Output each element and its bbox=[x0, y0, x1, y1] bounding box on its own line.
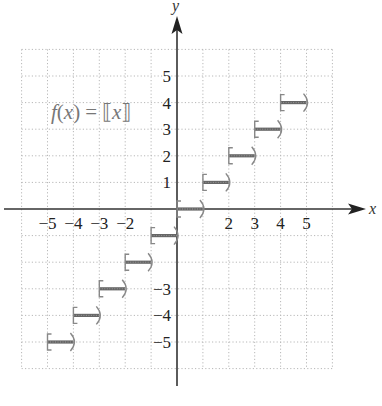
y-axis-label: y bbox=[170, 0, 180, 15]
step-segment bbox=[177, 200, 204, 218]
step-segment bbox=[99, 280, 126, 298]
step-segment bbox=[281, 94, 308, 112]
step-segment bbox=[73, 306, 100, 324]
step-segment bbox=[125, 253, 152, 271]
x-tick-label: 5 bbox=[302, 214, 311, 233]
y-tick-label: 3 bbox=[163, 120, 172, 139]
y-tick-label: 5 bbox=[163, 67, 172, 86]
y-tick-label: −3 bbox=[153, 280, 171, 299]
x-tick-label: 2 bbox=[225, 214, 234, 233]
step-segment bbox=[255, 120, 282, 138]
y-tick-label: −4 bbox=[153, 306, 172, 325]
x-tick-label: −3 bbox=[90, 214, 108, 233]
step-segment bbox=[229, 147, 256, 165]
step-segment bbox=[151, 227, 178, 245]
x-tick-label: −2 bbox=[116, 214, 134, 233]
y-tick-label: 1 bbox=[163, 173, 172, 192]
function-label: f(x)=⟦x⟧ bbox=[51, 100, 131, 124]
x-tick-label: 3 bbox=[250, 214, 259, 233]
y-tick-label: −5 bbox=[153, 333, 171, 352]
step-segment bbox=[48, 333, 75, 351]
y-tick-label: 2 bbox=[163, 147, 172, 166]
step-segment bbox=[203, 173, 230, 191]
x-axis-label: x bbox=[368, 200, 376, 217]
x-tick-label: −4 bbox=[64, 214, 83, 233]
x-tick-label: 4 bbox=[276, 214, 285, 233]
x-tick-label: −5 bbox=[38, 214, 56, 233]
axes: x y bbox=[4, 0, 376, 386]
y-tick-label: 4 bbox=[163, 94, 172, 113]
step-function-chart: x y −5−4−3−2234554321−3−4−5 f(x)=⟦x⟧ bbox=[0, 0, 382, 406]
